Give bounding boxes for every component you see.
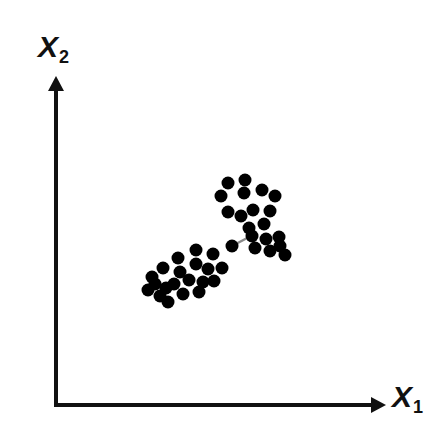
scatter-point — [222, 206, 235, 219]
scatter-point — [235, 210, 248, 223]
scatter-point — [249, 242, 262, 255]
scatter-point — [269, 190, 282, 203]
scatter-point — [183, 274, 196, 287]
scatter-point — [226, 240, 239, 253]
y-axis-label-base: X — [38, 30, 58, 63]
scatter-point — [208, 275, 221, 288]
scatter-point — [279, 249, 292, 262]
scatter-point — [149, 278, 162, 291]
scatter-point — [162, 296, 175, 309]
scatter-series-cluster-lower-left — [142, 240, 239, 309]
scatter-point — [264, 205, 277, 218]
scatter-point — [222, 177, 235, 190]
scatter-point — [190, 258, 203, 271]
scatter-point — [202, 263, 215, 276]
scatter-point — [246, 230, 259, 243]
scatter-point — [207, 248, 220, 261]
scatter-point — [177, 288, 190, 301]
scatter-point — [172, 252, 185, 265]
scatter-point — [239, 174, 252, 187]
x-axis-label: X1 — [392, 382, 422, 412]
x-axis-label-subscript: 1 — [413, 397, 423, 417]
scatter-point — [260, 233, 273, 246]
scatter-point — [247, 204, 260, 217]
x-axis-arrowhead — [371, 397, 386, 413]
scatter-point — [238, 187, 251, 200]
x-axis-label-base: X — [392, 380, 412, 413]
scatter-point — [193, 286, 206, 299]
scatter-point — [157, 262, 170, 275]
y-axis-label: X2 — [38, 32, 68, 62]
y-axis-label-subscript: 2 — [59, 47, 69, 67]
scatter-point — [216, 262, 229, 275]
scatter-point — [258, 218, 271, 231]
axes-group — [48, 76, 386, 413]
y-axis-arrowhead — [48, 76, 64, 91]
scatter-point — [215, 190, 228, 203]
scatter-point — [190, 244, 203, 257]
scatter-plot-figure: X2 X1 — [0, 0, 443, 440]
scatter-points-group — [142, 174, 292, 309]
scatter-point — [256, 184, 269, 197]
